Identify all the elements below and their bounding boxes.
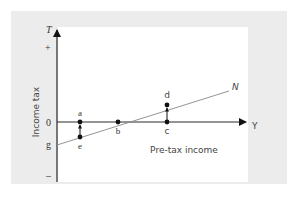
y-tick-minus: –	[45, 170, 52, 181]
y-axis-symbol: T	[46, 24, 53, 35]
y-tick-g: g	[46, 139, 51, 150]
point-d-label: d	[164, 90, 170, 100]
point-a-label: a	[78, 108, 82, 118]
y-axis-label: Income tax	[31, 86, 41, 137]
x-axis-symbol: Y	[251, 121, 258, 131]
tax-diagram: T Y + 0 g – Income tax Pre-tax income N …	[0, 0, 291, 198]
point-e	[78, 135, 83, 140]
y-tick-zero: 0	[46, 117, 51, 128]
line-n	[57, 91, 229, 145]
point-c	[165, 120, 170, 125]
point-b-label: b	[116, 126, 121, 136]
point-d	[165, 103, 170, 108]
point-a	[78, 120, 83, 125]
x-axis-label: Pre-tax income	[150, 145, 218, 155]
point-b	[116, 120, 121, 125]
point-c-label: c	[165, 126, 170, 136]
line-n-label: N	[232, 82, 239, 92]
point-e-label: e	[78, 141, 82, 151]
y-tick-plus: +	[45, 42, 51, 53]
